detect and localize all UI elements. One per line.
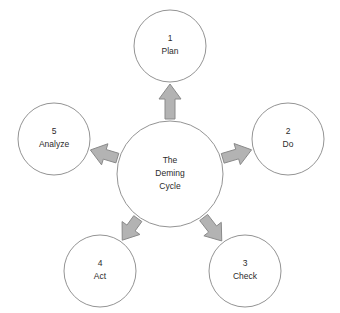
node-label-plan: Plan [161,46,178,56]
node-label-act: Act [94,271,107,281]
arrow-to-plan [159,84,181,119]
arrow-to-analyze [90,144,118,165]
diagram-canvas: 1Plan2Do3Check4Act5Analyze TheDemingCycl… [0,0,340,313]
deming-cycle-diagram: 1Plan2Do3Check4Act5Analyze TheDemingCycl… [0,0,340,313]
center-label-line2: Deming [155,168,185,178]
node-number-do: 2 [286,126,291,136]
arrow-to-check [200,214,222,240]
node-check[interactable]: 3Check [209,235,281,307]
center-label-line3: Cycle [159,181,181,191]
node-label-do: Do [283,139,294,149]
center-label-line1: The [163,155,178,165]
node-number-analyze: 5 [52,126,57,136]
node-label-check: Check [233,271,258,281]
node-analyze[interactable]: 5Analyze [18,103,90,175]
node-number-act: 4 [98,258,103,268]
node-label-analyze: Analyze [39,139,70,149]
node-act[interactable]: 4Act [64,235,136,307]
arrow-to-do [221,144,251,165]
center-node: TheDemingCycle [117,121,223,227]
node-number-check: 3 [243,258,248,268]
arrow-to-act [122,216,142,241]
node-number-plan: 1 [168,33,173,43]
center-node-group[interactable]: TheDemingCycle [117,121,223,227]
node-plan[interactable]: 1Plan [134,10,206,82]
node-do[interactable]: 2Do [252,103,324,175]
